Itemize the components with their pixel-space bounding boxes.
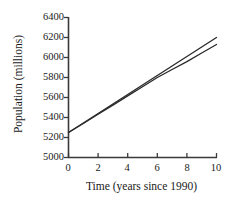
x-axis-title: Time (years since 1990) <box>50 180 233 192</box>
population-line-chart: Population (millions) 6400 6200 6000 580… <box>0 0 233 202</box>
data-line-series-1 <box>69 45 217 133</box>
plot-area <box>0 0 233 202</box>
